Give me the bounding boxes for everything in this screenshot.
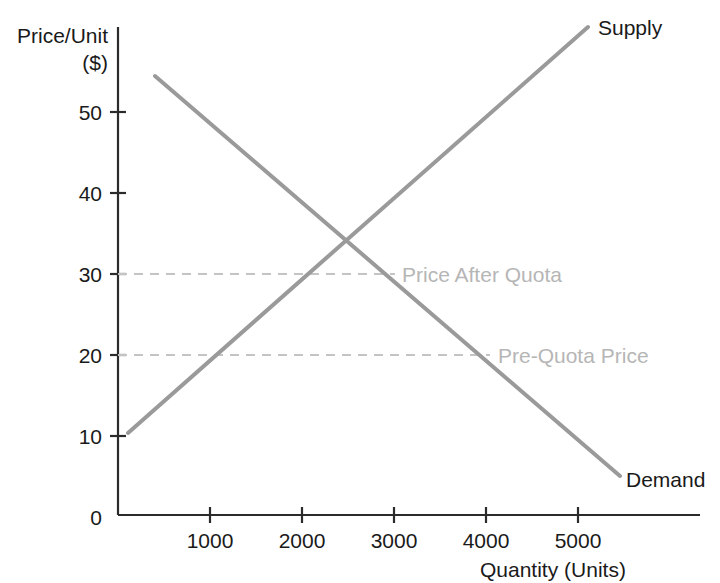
supply-demand-chart: 50 40 30 20 10 0 1000 2000 3000 4000 500… bbox=[0, 0, 720, 583]
axis-titles: Price/Unit ($) Quantity (Units) bbox=[17, 24, 626, 581]
y-tick-label-50: 50 bbox=[79, 101, 102, 124]
series-labels: Supply Demand bbox=[598, 16, 705, 491]
x-tick-labels: 1000 2000 3000 4000 5000 bbox=[187, 529, 602, 552]
x-tick-label-1000: 1000 bbox=[187, 529, 234, 552]
supply-curve bbox=[128, 27, 588, 433]
y-tick-label-0: 0 bbox=[90, 506, 102, 529]
demand-label: Demand bbox=[626, 468, 705, 491]
chart-canvas: 50 40 30 20 10 0 1000 2000 3000 4000 500… bbox=[0, 0, 720, 583]
x-tick-label-5000: 5000 bbox=[555, 529, 602, 552]
annotation-labels: Price After Quota Pre-Quota Price bbox=[402, 263, 649, 367]
x-axis-title: Quantity (Units) bbox=[480, 558, 626, 581]
x-tick-label-4000: 4000 bbox=[463, 529, 510, 552]
y-tick-label-30: 30 bbox=[79, 263, 102, 286]
y-tick-label-10: 10 bbox=[79, 425, 102, 448]
y-axis-title-line2: ($) bbox=[82, 51, 108, 74]
series-curves bbox=[128, 27, 620, 476]
supply-label: Supply bbox=[598, 16, 663, 39]
y-tick-labels: 50 40 30 20 10 0 bbox=[79, 101, 102, 529]
price-after-quota-label: Price After Quota bbox=[402, 263, 562, 286]
y-axis-title-line1: Price/Unit bbox=[17, 24, 108, 47]
x-tick-label-3000: 3000 bbox=[371, 529, 418, 552]
pre-quota-price-label: Pre-Quota Price bbox=[498, 344, 649, 367]
y-tick-label-20: 20 bbox=[79, 344, 102, 367]
y-tick-label-40: 40 bbox=[79, 182, 102, 205]
x-tick-label-2000: 2000 bbox=[279, 529, 326, 552]
